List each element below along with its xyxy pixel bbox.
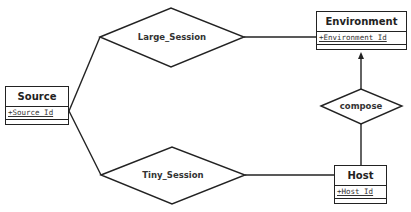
entity-source[interactable]: Source +Source_Id bbox=[5, 86, 69, 125]
entity-methods-compartment bbox=[317, 45, 406, 49]
entity-title: Host bbox=[335, 166, 386, 186]
entity-methods-compartment bbox=[6, 120, 68, 124]
entity-title: Environment bbox=[317, 12, 406, 32]
arrowhead-icon bbox=[358, 52, 364, 59]
relationship-label-large-session: Large_Session bbox=[138, 32, 206, 42]
entity-attribute: +Host_Id bbox=[335, 186, 386, 199]
entity-host[interactable]: Host +Host_Id bbox=[334, 165, 387, 204]
entity-title: Source bbox=[6, 87, 68, 107]
entity-attribute: +Environment_Id bbox=[317, 32, 406, 45]
entity-methods-compartment bbox=[335, 199, 386, 203]
entity-environment[interactable]: Environment +Environment_Id bbox=[316, 11, 407, 50]
relationship-label-compose: compose bbox=[340, 101, 382, 111]
edge-source-tiny-session bbox=[69, 111, 101, 175]
relationship-label-tiny-session: Tiny_Session bbox=[142, 170, 203, 180]
entity-attribute: +Source_Id bbox=[6, 107, 68, 120]
edge-source-large-session bbox=[69, 37, 100, 111]
